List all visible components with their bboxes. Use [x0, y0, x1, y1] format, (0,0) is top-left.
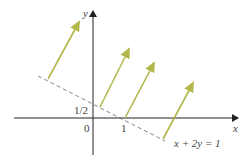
line-equation-label: x + 2y = 1: [174, 138, 221, 149]
vector-arrow-4: [163, 83, 193, 139]
x-tick-label-1: 1: [121, 123, 127, 134]
x-axis-label: x: [233, 123, 238, 134]
vector-arrow-1: [48, 22, 79, 79]
vector-arrow-3: [125, 63, 154, 118]
origin-label: 0: [84, 123, 90, 134]
line-x-plus-2y-equals-1: [38, 76, 165, 141]
y-axis-label: y: [83, 8, 88, 19]
y-tick-label-half: 1/2: [74, 105, 88, 116]
vector-arrow-2: [100, 49, 129, 107]
